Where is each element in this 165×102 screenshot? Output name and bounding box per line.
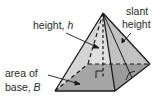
pyramid-diagram: height, h slant height area of base, B: [0, 0, 165, 102]
base-label-line2: base, B: [5, 81, 41, 93]
height-label: height, h: [33, 19, 73, 31]
base-label-line1: area of: [5, 67, 38, 79]
slant-label-line2: height: [122, 18, 151, 30]
slant-label-line1: slant: [126, 5, 148, 17]
